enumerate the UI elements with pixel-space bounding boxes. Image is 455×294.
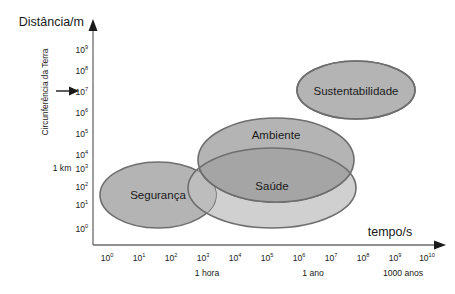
y-axis-title: Distância/m — [19, 15, 84, 29]
chart-figure: Segurança Saúde Ambiente Sustentabilidad… — [0, 0, 455, 294]
x-annotation-1-ano: 1 ano — [302, 268, 324, 278]
region-label-sustentabilidade: Sustentabilidade — [313, 85, 398, 97]
x-annotation-1000-anos: 1000 anos — [383, 268, 423, 278]
x-axis-title: tempo/s — [368, 225, 412, 239]
region-label-seguranca: Segurança — [130, 189, 186, 201]
y-annotation-1-km: 1 km — [53, 163, 72, 173]
region-label-ambiente: Ambiente — [252, 129, 301, 141]
x-annotation-1-hora: 1 hora — [195, 268, 220, 278]
region-label-saude: Saúde — [255, 180, 288, 192]
distance-time-bubble-chart: Segurança Saúde Ambiente Sustentabilidad… — [0, 0, 455, 294]
y-annotation-circunferencia-da-terra: Circunferência da Terra — [40, 48, 50, 135]
